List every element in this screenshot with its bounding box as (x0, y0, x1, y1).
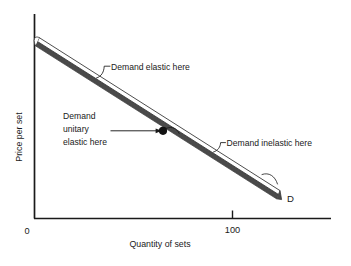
unitary-elastic-point-marker (159, 127, 167, 135)
annotation-demand-unitary-line3: elastic here (63, 137, 107, 147)
demand-elasticity-chart: Price per set Quantity of sets 0 100 Dem… (0, 0, 351, 266)
x-axis-label: Quantity of sets (129, 239, 191, 249)
annotation-demand-elastic: Demand elastic here (111, 62, 190, 72)
text-labels-group: Price per set Quantity of sets 0 100 Dem… (14, 62, 312, 250)
annotation-demand-unitary-line2: unitary (63, 124, 89, 134)
annotation-leaders-group (97, 66, 278, 184)
x-axis-tick-label-100: 100 (225, 225, 240, 235)
chart-canvas: Price per set Quantity of sets 0 100 Dem… (0, 0, 351, 266)
x-axis-origin-tick-label: 0 (24, 226, 29, 236)
demand-curve-label: D (287, 193, 294, 204)
y-axis-label: Price per set (14, 112, 24, 162)
annotation-demand-unitary-line1: Demand (63, 111, 96, 121)
annotation-demand-inelastic: Demand inelastic here (227, 138, 313, 148)
